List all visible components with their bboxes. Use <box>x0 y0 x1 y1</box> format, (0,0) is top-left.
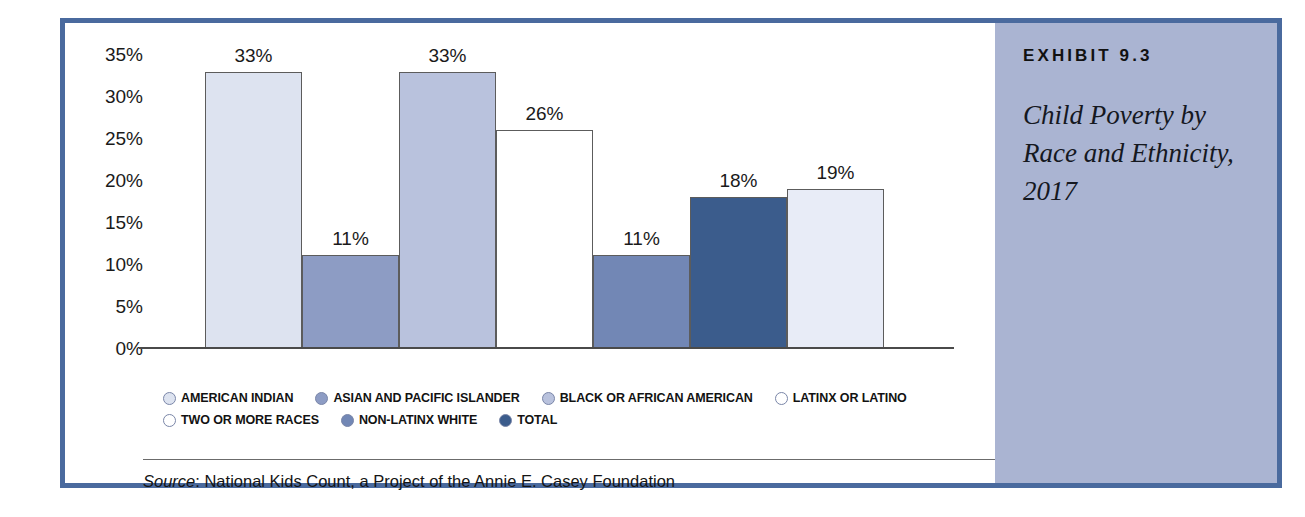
exhibit-title: Child Poverty by Race and Ethnicity, 201… <box>1023 96 1238 211</box>
bar-slot: 19% <box>787 55 884 347</box>
source-note: Source: National Kids Count, a Project o… <box>143 472 675 491</box>
y-axis-tick-label: 10% <box>105 254 143 276</box>
bar[interactable]: 11% <box>593 255 690 347</box>
bar-value-label: 19% <box>788 162 883 184</box>
source-prefix: Source <box>143 472 195 490</box>
legend-label: NON-LATINX WHITE <box>359 413 477 427</box>
bar-chart-plot: 35%30%25%20%15%10%5%0% 33%11%33%26%11%18… <box>153 55 953 349</box>
bar[interactable]: 33% <box>205 72 302 347</box>
plot-inner: 35%30%25%20%15%10%5%0% 33%11%33%26%11%18… <box>153 55 953 349</box>
legend-swatch-circle-icon <box>542 392 555 405</box>
legend-label: TOTAL <box>517 413 557 427</box>
legend-label: BLACK OR AFRICAN AMERICAN <box>560 391 753 405</box>
bar-value-label: 11% <box>303 228 398 250</box>
x-axis-baseline <box>139 347 954 349</box>
legend-item[interactable]: TOTAL <box>499 413 557 427</box>
y-axis-tick-label: 30% <box>105 86 143 108</box>
y-axis-tick-label: 20% <box>105 170 143 192</box>
y-axis-tick-label: 0% <box>116 338 143 360</box>
legend-row: TWO OR MORE RACESNON-LATINX WHITETOTAL <box>163 413 993 427</box>
source-divider <box>143 459 1005 460</box>
bar[interactable]: 18% <box>690 197 787 347</box>
chart-area: 35%30%25%20%15%10%5%0% 33%11%33%26%11%18… <box>65 23 995 483</box>
y-axis-tick-label: 35% <box>105 44 143 66</box>
bar-slot: 33% <box>399 55 496 347</box>
y-axis-tick-label: 5% <box>116 296 143 318</box>
bar-slot: 26% <box>496 55 593 347</box>
bar[interactable]: 33% <box>399 72 496 347</box>
y-axis-tick-label: 15% <box>105 212 143 234</box>
legend-swatch-circle-icon <box>315 392 328 405</box>
bar-slot: 33% <box>205 55 302 347</box>
legend-swatch-circle-icon <box>775 392 788 405</box>
exhibit-panel: EXHIBIT 9.3 Child Poverty by Race and Et… <box>995 23 1277 483</box>
legend-swatch-circle-icon <box>341 414 354 427</box>
legend-item[interactable]: LATINX OR LATINO <box>775 391 907 405</box>
chart-legend: AMERICAN INDIANASIAN AND PACIFIC ISLANDE… <box>163 391 993 435</box>
bar-value-label: 11% <box>594 228 689 250</box>
bar[interactable]: 11% <box>302 255 399 347</box>
legend-row: AMERICAN INDIANASIAN AND PACIFIC ISLANDE… <box>163 391 993 405</box>
legend-label: ASIAN AND PACIFIC ISLANDER <box>333 391 519 405</box>
bar-group: 33%11%33%26%11%18%19% <box>205 55 884 347</box>
legend-swatch-circle-icon <box>499 414 512 427</box>
legend-item[interactable]: BLACK OR AFRICAN AMERICAN <box>542 391 753 405</box>
bar-value-label: 26% <box>497 103 592 125</box>
bar-slot: 11% <box>593 55 690 347</box>
bar-value-label: 33% <box>206 45 301 67</box>
legend-item[interactable]: AMERICAN INDIAN <box>163 391 293 405</box>
y-axis-tick-label: 25% <box>105 128 143 150</box>
bar[interactable]: 19% <box>787 189 884 348</box>
legend-item[interactable]: NON-LATINX WHITE <box>341 413 477 427</box>
bar[interactable]: 26% <box>496 130 593 347</box>
exhibit-number-label: EXHIBIT 9.3 <box>1023 47 1277 66</box>
legend-swatch-circle-icon <box>163 392 176 405</box>
bar-slot: 18% <box>690 55 787 347</box>
legend-item[interactable]: TWO OR MORE RACES <box>163 413 319 427</box>
legend-label: LATINX OR LATINO <box>793 391 907 405</box>
legend-swatch-circle-icon <box>163 414 176 427</box>
bar-slot: 11% <box>302 55 399 347</box>
bar-value-label: 33% <box>400 45 495 67</box>
source-body: National Kids Count, a Project of the An… <box>204 472 675 490</box>
bar-value-label: 18% <box>691 170 786 192</box>
legend-item[interactable]: ASIAN AND PACIFIC ISLANDER <box>315 391 519 405</box>
legend-label: TWO OR MORE RACES <box>181 413 319 427</box>
legend-label: AMERICAN INDIAN <box>181 391 293 405</box>
exhibit-figure: 35%30%25%20%15%10%5%0% 33%11%33%26%11%18… <box>60 18 1282 488</box>
